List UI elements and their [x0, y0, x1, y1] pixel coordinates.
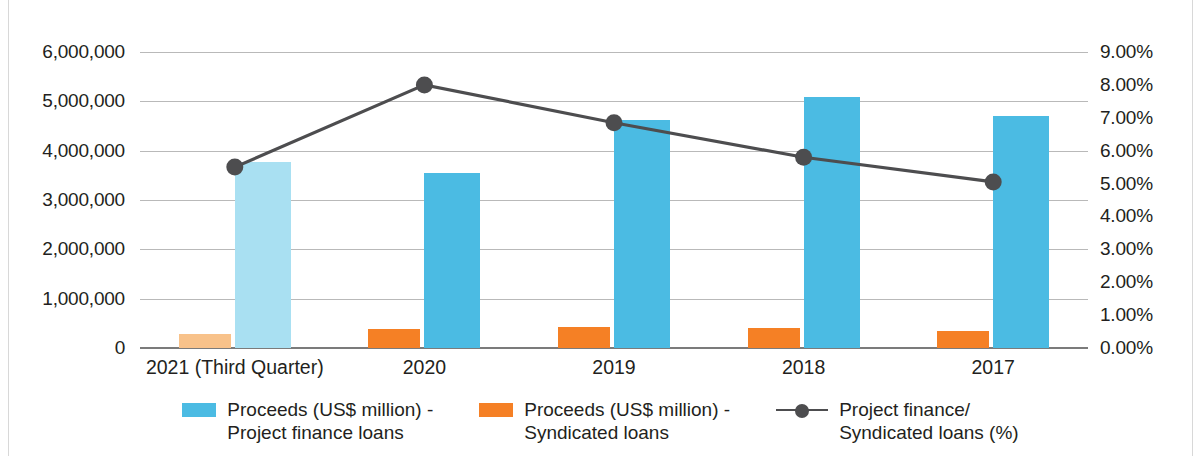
line-marker [985, 173, 1002, 190]
legend-color-swatch [182, 403, 216, 417]
y-axis-left-tick-label: 3,000,000 [0, 189, 125, 211]
legend-label: Proceeds (US$ million) - Project finance… [227, 398, 433, 444]
legend-color-swatch [479, 403, 513, 417]
y-axis-left-tick-label: 2,000,000 [0, 238, 125, 260]
y-axis-left-tick-label: 5,000,000 [0, 90, 125, 112]
line-series-layer [140, 52, 1088, 348]
legend-label: Project finance/ Syndicated loans (%) [839, 398, 1019, 444]
y-axis-left-tick-label: 6,000,000 [0, 41, 125, 63]
legend-item[interactable]: Proceeds (US$ million) - Syndicated loan… [479, 398, 730, 444]
chart-figure: 01,000,0002,000,0003,000,0004,000,0005,0… [0, 0, 1201, 456]
y-axis-right-tick-label: 1.00% [1100, 304, 1201, 326]
legend-line-marker-icon [776, 403, 828, 417]
line-marker [606, 114, 623, 131]
x-axis-tick-label: 2018 [782, 356, 825, 379]
legend-item[interactable]: Project finance/ Syndicated loans (%) [776, 398, 1019, 444]
y-axis-left-tick-label: 4,000,000 [0, 140, 125, 162]
chart-legend: Proceeds (US$ million) - Project finance… [0, 398, 1201, 456]
y-axis-right-tick-label: 3.00% [1100, 238, 1201, 260]
y-axis-right-tick-label: 2.00% [1100, 271, 1201, 293]
figure-right-border [1192, 0, 1193, 456]
legend-item[interactable]: Proceeds (US$ million) - Project finance… [182, 398, 433, 444]
y-axis-right-tick-label: 8.00% [1100, 74, 1201, 96]
legend-label: Proceeds (US$ million) - Syndicated loan… [524, 398, 730, 444]
line-marker [226, 159, 243, 176]
y-axis-right-tick-label: 4.00% [1100, 205, 1201, 227]
line-marker [795, 149, 812, 166]
y-axis-right-tick-label: 6.00% [1100, 140, 1201, 162]
x-axis-tick-label: 2021 (Third Quarter) [146, 356, 324, 379]
y-axis-left-tick-label: 0 [0, 337, 125, 359]
x-axis-tick-label: 2020 [403, 356, 446, 379]
y-axis-right-tick-label: 7.00% [1100, 107, 1201, 129]
y-axis-right-tick-label: 5.00% [1100, 173, 1201, 195]
line-marker [416, 76, 433, 93]
line-path-project-finance-ratio [235, 85, 993, 182]
figure-left-border [8, 0, 9, 456]
y-axis-right-tick-label: 0.00% [1100, 337, 1201, 359]
y-axis-left-tick-label: 1,000,000 [0, 288, 125, 310]
x-axis-tick-label: 2019 [592, 356, 635, 379]
x-axis-tick-label: 2017 [971, 356, 1014, 379]
plot-area [140, 52, 1088, 348]
y-axis-right-tick-label: 9.00% [1100, 41, 1201, 63]
